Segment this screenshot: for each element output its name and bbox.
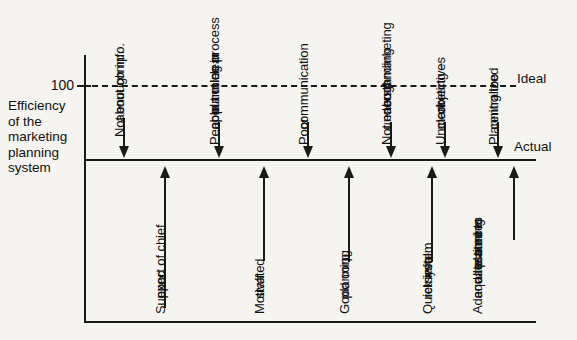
bottom-border-line [84, 321, 536, 323]
label-quick-info-retrieval-system: Quick info. retrieval system [420, 268, 436, 315]
y-axis-caption-line: system [8, 160, 51, 175]
label-line: about marketing [379, 99, 395, 115]
label-line: Poor [296, 130, 312, 146]
label-good-corp-planning: Good corp. planning [337, 283, 353, 314]
label-line: marketing – [433, 114, 449, 130]
y-axis-caption-line: planning [8, 145, 59, 160]
label-line: Good corp. [337, 299, 353, 315]
label-line: planning process [207, 99, 223, 115]
label-line: about roles in [207, 114, 223, 130]
label-poor-communication: Poor communication [296, 114, 312, 145]
label-line: objectives [433, 99, 449, 115]
actual-baseline [84, 159, 536, 161]
label-people-not-clear-about-roles: People not clear about roles in planning… [207, 99, 223, 146]
label-line: Motivated [252, 299, 268, 315]
y-axis-caption: Efficiency of the marketing planning sys… [8, 98, 80, 176]
label-line: communication [296, 114, 312, 130]
y-axis-tick-100 [77, 85, 91, 87]
y-axis-caption-line: marketing [8, 129, 67, 144]
label-line: allocated to [470, 268, 486, 284]
label-line: exec. [153, 283, 169, 299]
label-line: understanding [379, 114, 395, 130]
label-line: system [420, 268, 436, 284]
force-field-diagram: 100 Efficiency of the marketing planning… [0, 0, 577, 340]
label-not-enough-info-about-comp: Not enough info. about comp. [112, 106, 128, 137]
label-line: and resources [470, 283, 486, 299]
label-line: staff [252, 283, 268, 299]
label-line: Not enough info. [112, 122, 128, 138]
label-planning-too-centralized: Planning too centralized [486, 114, 502, 145]
label-not-enough-understanding-about-marketing: Not enough understanding about marketing [379, 99, 395, 146]
y-axis-tick-label: 100 [36, 77, 74, 93]
y-axis-caption-line: of the [8, 114, 42, 129]
label-line: Not enough [379, 130, 395, 146]
label-motivated-staff: Motivated staff [252, 283, 268, 314]
y-axis-line [84, 55, 86, 323]
label-line: Quick info. [420, 299, 436, 315]
label-line: centralized [486, 114, 502, 130]
label-line: planning [337, 283, 353, 299]
label-line: Unclear [433, 130, 449, 146]
label-support-of-chief-exec: Support of chief exec. [153, 283, 169, 314]
y-axis-caption-line: Efficiency [8, 98, 66, 113]
label-adequate-time-and-resources: Adequate time and resources allocated to… [470, 252, 486, 314]
label-line: retrieval [420, 283, 436, 299]
label-line: People not clear [207, 130, 223, 146]
label-unclear-marketing-objectives: Unclear marketing – objectives [433, 99, 449, 146]
label-line: Planning too [486, 130, 502, 146]
label-line: Adequate time [470, 299, 486, 315]
label-line: Support of chief [153, 299, 169, 315]
actual-line-label: Actual [514, 139, 552, 154]
label-line: planning [470, 252, 486, 268]
label-line: about comp. [112, 106, 128, 122]
ideal-line-label: Ideal [517, 71, 546, 86]
